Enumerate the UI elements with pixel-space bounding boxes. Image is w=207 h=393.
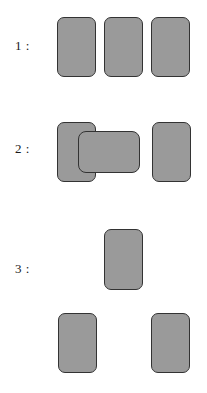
card-3-1 xyxy=(104,229,143,290)
card-2-3 xyxy=(152,122,191,182)
card-1-3 xyxy=(151,17,190,77)
card-1-1 xyxy=(57,17,96,77)
card-1-2 xyxy=(104,17,143,77)
row-label-1: 1 : xyxy=(15,39,30,52)
card-3-2 xyxy=(58,313,97,373)
figure-canvas: 1 :2 :3 : xyxy=(0,0,207,393)
row-label-2: 2 : xyxy=(15,142,30,155)
card-3-3 xyxy=(151,313,190,373)
row-label-3: 3 : xyxy=(15,262,30,275)
card-2-2 xyxy=(78,131,140,173)
